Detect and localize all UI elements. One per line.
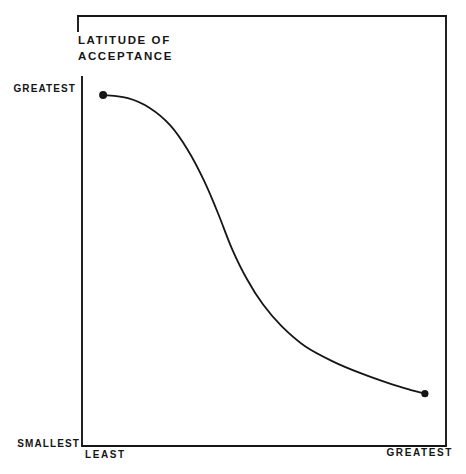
x-axis-tick-label-greatest: GREATEST [386, 447, 453, 458]
chart-title-line-1: LATITUDE OF [78, 34, 171, 46]
y-axis-tick-label-smallest: SMALLEST [8, 438, 80, 449]
latitude-of-acceptance-figure: LATITUDE OF ACCEPTANCE GREATEST SMALLEST… [0, 0, 466, 474]
chart-title-line-2: ACCEPTANCE [78, 50, 173, 62]
curve-end-point [421, 390, 428, 397]
y-axis-tick-label-greatest: GREATEST [4, 83, 76, 94]
x-axis-tick-label-least: LEAST [85, 449, 126, 460]
acceptance-curve [103, 95, 425, 394]
chart-canvas [0, 0, 466, 474]
curve-start-point [99, 91, 107, 99]
